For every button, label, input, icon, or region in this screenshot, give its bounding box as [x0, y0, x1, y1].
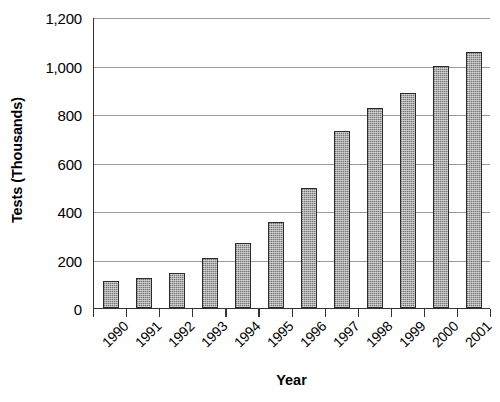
- x-axis-tick-label: 1998: [363, 318, 395, 350]
- x-axis-tick: [358, 309, 359, 317]
- x-axis-title-text: Year: [276, 372, 307, 388]
- bar-series-tests: [94, 18, 490, 308]
- x-axis-ticks: [93, 309, 490, 317]
- bar: [400, 93, 416, 308]
- bar: [136, 278, 152, 308]
- x-axis-tick: [292, 309, 293, 317]
- x-axis-tick-label: 1993: [198, 318, 230, 350]
- x-axis-tick-label: 1996: [297, 318, 329, 350]
- x-axis-tick-label: 1991: [131, 318, 163, 350]
- x-axis-tick-label: 1990: [98, 318, 130, 350]
- x-axis-tick: [424, 309, 425, 317]
- x-axis-tick: [490, 309, 491, 317]
- x-axis-tick: [225, 309, 226, 317]
- x-axis-tick-label: 1994: [231, 318, 263, 350]
- x-axis-tick-label: 1997: [330, 318, 362, 350]
- x-axis-tick: [192, 309, 193, 317]
- y-axis-title: Tests (Thousands): [0, 0, 34, 320]
- y-axis-tick-label: 600: [58, 155, 82, 172]
- x-axis-tick: [258, 309, 259, 317]
- y-axis-tick-label: 400: [58, 204, 82, 221]
- bar: [466, 52, 482, 308]
- y-axis-tick-labels: 02004006008001,0001,200: [34, 0, 88, 320]
- bar: [202, 258, 218, 308]
- x-axis-tick-label: 2001: [462, 318, 494, 350]
- x-axis-tick-label: 1999: [396, 318, 428, 350]
- bar: [103, 281, 119, 308]
- x-axis-tick: [325, 309, 326, 317]
- bar: [301, 188, 317, 308]
- y-axis-tick-label: 800: [58, 107, 82, 124]
- x-axis-tick-label: 1992: [165, 318, 197, 350]
- plot-area: [93, 18, 490, 309]
- y-axis-tick-label: 1,000: [45, 58, 82, 75]
- x-axis-tick-labels: 1990199119921993199419951996199719981999…: [93, 318, 490, 364]
- bar: [169, 273, 185, 308]
- x-axis-tick: [391, 309, 392, 317]
- x-axis-tick-label: 2000: [429, 318, 461, 350]
- y-axis-title-text: Tests (Thousands): [9, 97, 25, 223]
- bar: [268, 222, 284, 308]
- x-axis-title: Year: [93, 372, 490, 388]
- bar: [433, 66, 449, 309]
- x-axis-tick: [457, 309, 458, 317]
- y-axis-tick-label: 1,200: [45, 10, 82, 27]
- bar-chart: Tests (Thousands) 02004006008001,0001,20…: [0, 0, 500, 402]
- bar: [235, 243, 251, 308]
- x-axis-tick-label: 1995: [264, 318, 296, 350]
- x-axis-tick: [159, 309, 160, 317]
- bar: [334, 131, 350, 308]
- y-axis-tick-label: 0: [74, 301, 82, 318]
- x-axis-tick: [93, 309, 94, 317]
- y-axis-tick-label: 200: [58, 252, 82, 269]
- bar: [367, 108, 383, 308]
- x-axis-tick: [126, 309, 127, 317]
